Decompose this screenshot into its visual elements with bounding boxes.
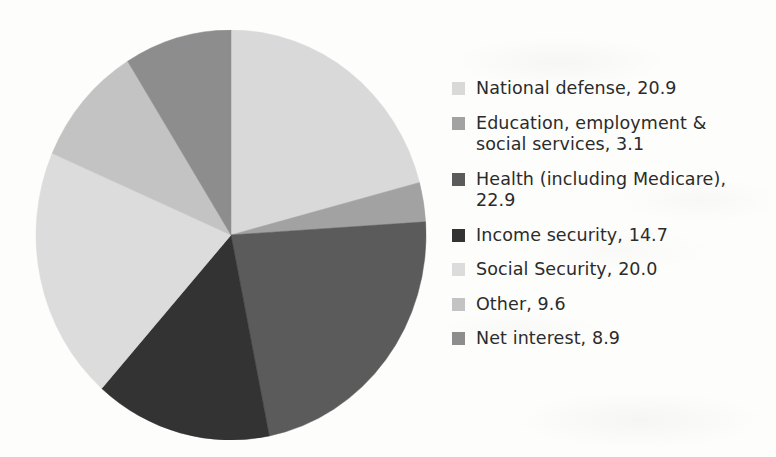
legend-item[interactable]: National defense, 20.9 (452, 78, 772, 100)
legend-item-label: National defense, 20.9 (476, 78, 677, 100)
pie-slice-group (36, 30, 426, 440)
legend-swatch-icon (452, 117, 465, 130)
legend-item-label: Education, employment & social services,… (476, 113, 748, 156)
legend-item[interactable]: Income security, 14.7 (452, 225, 772, 247)
pie-svg (34, 30, 428, 440)
legend-item[interactable]: Other, 9.6 (452, 294, 772, 316)
pie-chart-graphic (34, 30, 428, 440)
legend-swatch-icon (452, 173, 465, 186)
legend-swatch-icon (452, 332, 465, 345)
pie-chart-figure: National defense, 20.9Education, employm… (0, 0, 776, 457)
legend-swatch-icon (452, 298, 465, 311)
legend-item[interactable]: Health (including Medicare), 22.9 (452, 169, 772, 212)
legend-item[interactable]: Net interest, 8.9 (452, 328, 772, 350)
legend-item-label: Other, 9.6 (476, 294, 566, 316)
legend-item-label: Social Security, 20.0 (476, 259, 658, 281)
legend-item[interactable]: Social Security, 20.0 (452, 259, 772, 281)
legend-item-label: Health (including Medicare), 22.9 (476, 169, 748, 212)
legend-item-label: Net interest, 8.9 (476, 328, 620, 350)
legend-item-label: Income security, 14.7 (476, 225, 668, 247)
legend-swatch-icon (452, 263, 465, 276)
legend-swatch-icon (452, 229, 465, 242)
chart-legend: National defense, 20.9Education, employm… (452, 78, 772, 363)
legend-item[interactable]: Education, employment & social services,… (452, 113, 772, 156)
legend-swatch-icon (452, 82, 465, 95)
